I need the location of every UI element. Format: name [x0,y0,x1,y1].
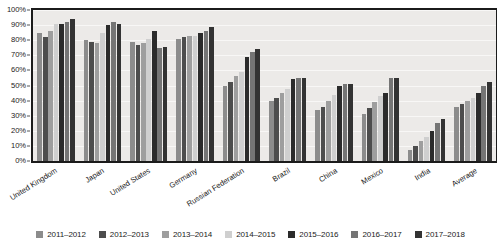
y-tick-mark [27,25,30,26]
legend-item[interactable]: 2015–2016 [288,230,338,239]
bar [362,114,367,161]
bar [274,98,279,161]
bar [326,101,331,161]
legend-label: 2017–2018 [426,230,465,239]
y-tick-label: 70% [11,51,26,59]
x-tick-label: Mexico [360,166,385,186]
y-tick-label: 10% [11,142,26,150]
x-tick-label: Japan [83,166,105,185]
bar [337,86,342,162]
x-tick-label: China [317,166,339,184]
bar [476,93,481,161]
bar [430,131,435,161]
bar [419,141,424,161]
bar-groups [33,10,496,161]
x-tick-label: Brazil [271,166,292,184]
bar [245,57,250,161]
bar [223,86,228,162]
bar-group [79,10,125,161]
y-tick-mark [27,100,30,101]
legend-item[interactable]: 2017–2018 [415,230,465,239]
legend-swatch-icon [288,231,295,238]
y-tick-label: 80% [11,36,26,44]
y-tick-label: 100% [7,6,26,14]
bar [84,40,89,161]
bar [383,93,388,161]
bar [204,31,209,161]
x-tick-label: India [413,166,432,182]
y-tick-label: 90% [11,21,26,29]
legend-swatch-icon [415,231,422,238]
legend-item[interactable]: 2011–2012 [36,230,86,239]
bar [48,31,53,161]
legend-label: 2014–2015 [236,230,275,239]
bar-group [311,10,357,161]
legend-swatch-icon [351,231,358,238]
bar [280,93,285,161]
x-tick-label: Average [450,166,479,189]
x-label-slot: Mexico [357,163,404,221]
bar [481,86,486,162]
plot-area [31,8,497,163]
legend-swatch-icon [162,231,169,238]
x-label-slot: Average [450,163,497,221]
y-tick-label: 30% [11,112,26,120]
bar [152,31,157,161]
bar [100,33,105,161]
bar [367,108,372,161]
bar [441,119,446,161]
y-tick-mark [27,145,30,146]
y-tick-label: 0% [15,157,26,165]
bar [315,110,320,161]
legend-item[interactable]: 2016–2017 [351,230,401,239]
legend-item[interactable]: 2012–2013 [99,230,149,239]
bar-group [357,10,403,161]
legend-label: 2013–2014 [173,230,212,239]
bar [54,24,59,161]
bar [141,43,146,161]
bar [348,84,353,161]
bar [117,24,122,161]
legend-label: 2012–2013 [110,230,149,239]
legend-item[interactable]: 2013–2014 [162,230,212,239]
bar-group [264,10,310,161]
bar [89,42,94,161]
y-axis: 0%10%20%30%40%50%60%70%80%90%100% [0,8,30,163]
bar [250,52,255,161]
plot-wrapper: 0%10%20%30%40%50%60%70%80%90%100% United… [0,0,501,170]
legend-item[interactable]: 2014–2015 [225,230,275,239]
y-tick-mark [27,115,30,116]
bar [255,49,260,161]
y-tick-label: 20% [11,127,26,135]
y-tick-mark [27,85,30,86]
bar [65,22,70,161]
bar [182,37,187,161]
chart-legend: 2011–20122012–20132013–20142014–20152015… [0,224,501,244]
bar-chart: 0%10%20%30%40%50%60%70%80%90%100% United… [0,0,501,252]
y-tick-label: 40% [11,97,26,105]
bar [59,24,64,161]
legend-swatch-icon [99,231,106,238]
bar [471,98,476,161]
y-tick-mark [27,70,30,71]
bar [234,76,239,161]
y-tick-mark [27,130,30,131]
bar [209,27,214,161]
bar [343,84,348,161]
bar [95,43,100,161]
bar-group [450,10,496,161]
bar [291,79,296,161]
bar [136,45,141,161]
x-label-slot: United Kingdom [31,163,78,221]
bar-group [172,10,218,161]
bar-group [218,10,264,161]
bar [176,39,181,161]
bar [228,82,233,161]
bar [302,78,307,161]
bar [198,33,203,161]
bar-group [126,10,172,161]
bar-group [403,10,449,161]
legend-swatch-icon [225,231,232,238]
y-tick-mark [27,10,30,11]
bar [424,137,429,161]
